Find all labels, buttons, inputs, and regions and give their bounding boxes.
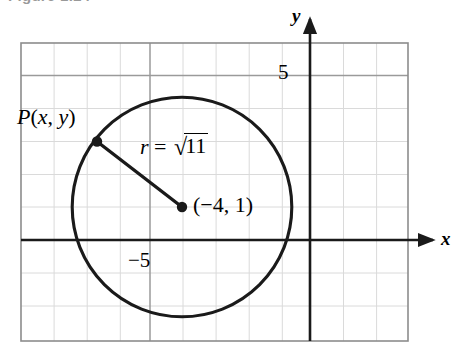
y-tick-label-5: 5 <box>278 62 289 83</box>
point-p-prefix: P <box>17 104 30 129</box>
center-point-marker <box>177 202 187 212</box>
point-p-marker <box>92 136 102 146</box>
center-coordinates-label: (−4, 1) <box>193 194 253 216</box>
point-p-x-var: x <box>38 104 48 129</box>
coordinate-plane-graph <box>0 0 465 363</box>
radius-variable: r <box>140 134 149 159</box>
radius-equals-sign: = <box>154 134 166 159</box>
point-p-close-paren: ) <box>68 104 75 129</box>
point-p-label: P(x, y) <box>17 106 76 128</box>
x-axis-label: x <box>441 229 451 248</box>
figure-container: Figure 1.24 <box>0 0 465 363</box>
point-p-open-paren: ( <box>30 104 37 129</box>
radical-group: √11 <box>172 134 208 159</box>
point-p-y-var: y <box>59 104 69 129</box>
x-tick-label-neg5: −5 <box>128 250 150 271</box>
y-axis-label: y <box>292 6 300 25</box>
radicand-value: 11 <box>184 133 208 157</box>
radius-label: r = √11 <box>140 134 208 159</box>
point-p-comma: , <box>48 104 54 129</box>
